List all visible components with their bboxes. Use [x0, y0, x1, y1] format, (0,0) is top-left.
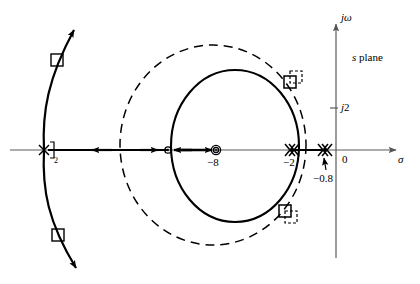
locus-left-branch-upper [44, 30, 74, 150]
imag-tick-label-j2: j2 [341, 102, 350, 113]
label-minus-0-8: −0.8 [313, 173, 333, 184]
origin-label: 0 [342, 154, 348, 165]
label-minus-2: −2 [283, 157, 295, 168]
imag-tick-num: 2 [344, 101, 350, 113]
sigma-axis-label: σ [398, 154, 403, 165]
label-multiplicity-2: 2 [54, 157, 58, 165]
label-minus-8: −8 [207, 157, 219, 168]
root-locus-figure: s plane σ jω j2 0 −8 −2 −0.8 2 [0, 0, 420, 284]
locus-solid-ellipse [171, 70, 299, 222]
locus-left-branch-lower [44, 150, 76, 268]
axis-group [10, 24, 396, 258]
s-plane-label: s plane [352, 52, 383, 63]
callout-leader-line [324, 158, 326, 170]
jomega-axis-label: jω [341, 12, 352, 23]
callout-minus-0-8 [324, 158, 326, 170]
s-plane-rest: plane [356, 51, 383, 63]
solid-ellipse-locus [171, 70, 299, 222]
root-locus-canvas [0, 0, 420, 284]
